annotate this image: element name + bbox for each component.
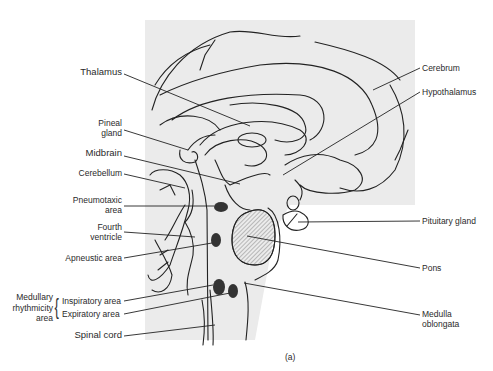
label-medulla-oblongata: Medulla oblongata [422, 309, 459, 329]
label-medullary-line2: rhythmicity [0, 303, 53, 314]
label-hypothalamus: Hypothalamus [422, 87, 476, 97]
label-fourth-ventricle: Fourth ventricle [60, 222, 122, 242]
label-medullary-rhythmicity-area: Medullary rhythmicity area [0, 292, 53, 324]
background-panel [145, 20, 415, 340]
label-midbrain: Midbrain [70, 148, 122, 158]
figure-panel-label: (a) [285, 352, 295, 362]
apneustic-nucleus [211, 233, 221, 247]
label-pineal-line1: Pineal [80, 118, 122, 128]
label-pneumotaxic-area: Pneumotaxic area [60, 195, 122, 215]
label-medullary-line3: area [0, 313, 53, 324]
pneumotaxic-nucleus [214, 202, 228, 212]
label-inspiratory-area: Inspiratory area [62, 296, 121, 306]
label-pons: Pons [422, 263, 441, 273]
label-spinal-cord: Spinal cord [50, 330, 122, 340]
inspiratory-nucleus [213, 279, 225, 295]
label-thalamus: Thalamus [70, 67, 122, 77]
brace-icon: { [54, 296, 58, 318]
label-pneumotaxic-line1: Pneumotaxic [60, 195, 122, 205]
label-cerebellum: Cerebellum [60, 168, 122, 178]
label-medullary-line1: Medullary [0, 292, 53, 303]
label-pineal-gland: Pineal gland [80, 118, 122, 138]
label-fourth-ventricle-line1: Fourth [60, 222, 122, 232]
label-pineal-line2: gland [80, 128, 122, 138]
label-cerebrum: Cerebrum [422, 63, 460, 73]
expiratory-nucleus [228, 284, 238, 298]
label-expiratory-area: Expiratory area [62, 309, 120, 319]
label-pituitary-gland: Pituitary gland [422, 216, 476, 226]
label-fourth-ventricle-line2: ventricle [60, 232, 122, 242]
label-medulla-line1: Medulla [422, 309, 459, 319]
label-apneustic-area: Apneustic area [40, 253, 122, 263]
label-pneumotaxic-line2: area [60, 205, 122, 215]
label-medulla-line2: oblongata [422, 319, 459, 329]
